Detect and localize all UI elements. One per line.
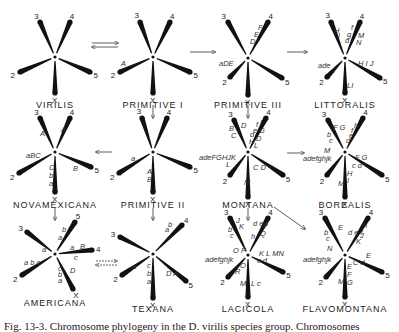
inversion-label: aDE [219, 59, 235, 68]
species-name: LACICOLA [222, 304, 275, 314]
centromere-dot [246, 56, 249, 59]
arm-number-label: 5 [193, 71, 198, 80]
inversion-label: adeFGHJK [199, 153, 237, 162]
chromosome-phylogeny-diagram: 3425XVIRILIS3425XAPRIMITIVE I3425XFEDaDE… [0, 0, 399, 320]
species-name: PRIMITIVE III [214, 100, 282, 110]
arm-number-label: 4 [268, 12, 273, 21]
chromosome-arm-5 [156, 153, 190, 169]
inversion-label: I [338, 31, 340, 40]
inversion-label: a [132, 262, 136, 271]
arm-number-label: 5 [93, 71, 98, 80]
arm-number-label: 3 [137, 107, 142, 116]
species-flavomontana: 3425XEbchd e fJKNadefghjkEC dEFGMFLAVOMO… [302, 208, 390, 314]
arm-number-label: 2 [319, 78, 324, 87]
species-primitive-iii: 3425XFEDaDEPRIMITIVE III [214, 12, 290, 110]
arm-number-label: 5 [285, 78, 290, 87]
chromosome-arm-5 [58, 58, 91, 74]
chromosome-arm-X [52, 156, 57, 192]
centromere-dot [151, 252, 154, 255]
arm-number-label: 5 [385, 271, 390, 280]
arm-number-label: 4 [360, 12, 365, 21]
arm-number-label: 2 [220, 278, 225, 287]
inversion-label: c d [352, 161, 363, 170]
inversion-label: N [356, 38, 362, 47]
arm-number-label: 2 [10, 173, 15, 182]
inversion-label: c [230, 231, 234, 240]
arm-number-label: 3 [135, 11, 140, 20]
inversion-label: b [62, 225, 66, 234]
arm-number-label: 4 [369, 208, 374, 217]
arm-number-label: 2 [222, 78, 227, 87]
centromere-dot [343, 56, 346, 59]
arm-number-label: 3 [111, 230, 116, 239]
arm-number-label: 4 [268, 208, 273, 217]
arm-number-label: 3 [228, 110, 233, 119]
inversion-label: E [366, 251, 372, 260]
arm-number-label: 2 [320, 177, 325, 186]
inversion-label: adefghjk [303, 154, 333, 163]
arm-number-label: 5 [286, 175, 291, 184]
inversion-label: C [231, 131, 237, 140]
inversion-label: c [74, 253, 78, 262]
species-texana: 3425XabacbaD ATEXANA [111, 216, 194, 314]
arm-number-label: 4 [96, 245, 101, 254]
centromere-dot [246, 253, 249, 256]
inversion-label: a [147, 277, 151, 286]
inversion-label: O P [233, 246, 246, 255]
inversion-label: a [42, 245, 46, 254]
species-primitive-ii: 3425XaABPRIMITIVE II [110, 107, 198, 210]
inversion-label: A [120, 59, 126, 68]
centromere-dot [53, 150, 56, 153]
centromere-dot [53, 55, 56, 58]
inversion-label: h [363, 221, 367, 230]
arm-number-label: 4 [363, 108, 368, 117]
inversion-label: L [254, 141, 258, 150]
arm-number-label: 4 [70, 108, 75, 117]
inversion-label: M [240, 279, 247, 288]
species-primitive-i: 3425XAPRIMITIVE I [111, 11, 199, 110]
arm-number-label: 4 [167, 108, 172, 117]
arm-number-label: 2 [110, 173, 115, 182]
inversion-label: a [49, 179, 53, 188]
inversion-label: F G [333, 123, 346, 132]
arm-number-label: 4 [70, 12, 75, 21]
chromosome-arm-5 [156, 58, 190, 74]
figure-caption: Fig. 13-3. Chromosome phylogeny in the D… [4, 320, 360, 332]
inversion-label: I [347, 176, 349, 185]
inversion-label: C d [353, 258, 366, 267]
arm-number-label: 3 [319, 208, 324, 217]
species-americana: 3542Xbaaa b caBccbaDAMERICANA [13, 212, 101, 308]
inversion-label: B [73, 164, 78, 173]
chromosome-arm-X [150, 258, 155, 298]
species-name: TEXANA [132, 304, 174, 314]
arm-number-label: 4 [266, 108, 271, 117]
species-name: AMERICANA [24, 298, 87, 308]
inversion-label: M [244, 178, 251, 187]
inversion-label: a [131, 154, 135, 163]
inversion-label: M [338, 179, 345, 188]
arm-number-label: 2 [111, 71, 116, 80]
arm-number-label: 5 [193, 166, 198, 175]
inversion-label: c d [257, 256, 268, 265]
inversion-label: I [333, 66, 335, 75]
arm-number-label: 3 [34, 12, 39, 21]
inversion-label: K [239, 222, 245, 231]
inversion-label: H I J [358, 59, 374, 68]
inversion-label: R [235, 267, 241, 276]
arm-number-label: 3 [325, 11, 330, 20]
inversion-label: h [251, 232, 255, 241]
inversion-label: LI [347, 81, 353, 90]
species-virilis: 3425XVIRILIS [11, 12, 99, 110]
inversion-label: adefghjk [205, 255, 235, 264]
inversion-label: A [39, 129, 45, 138]
inversion-label: aBC [26, 151, 41, 160]
chromosome-arm-5 [251, 60, 283, 81]
centromere-dot [343, 150, 346, 153]
species-name: FLAVOMONTANA [302, 304, 387, 314]
arm-number-label: 5 [383, 77, 388, 86]
chromosome-arm-2 [19, 58, 52, 74]
arm-number-label: 2 [13, 275, 18, 284]
inversion-label: D [70, 266, 76, 275]
species-littoralis: 3425XHIfgdMNadeIH I JLILITTORALIS [314, 11, 388, 110]
centromere-dot [246, 150, 249, 153]
